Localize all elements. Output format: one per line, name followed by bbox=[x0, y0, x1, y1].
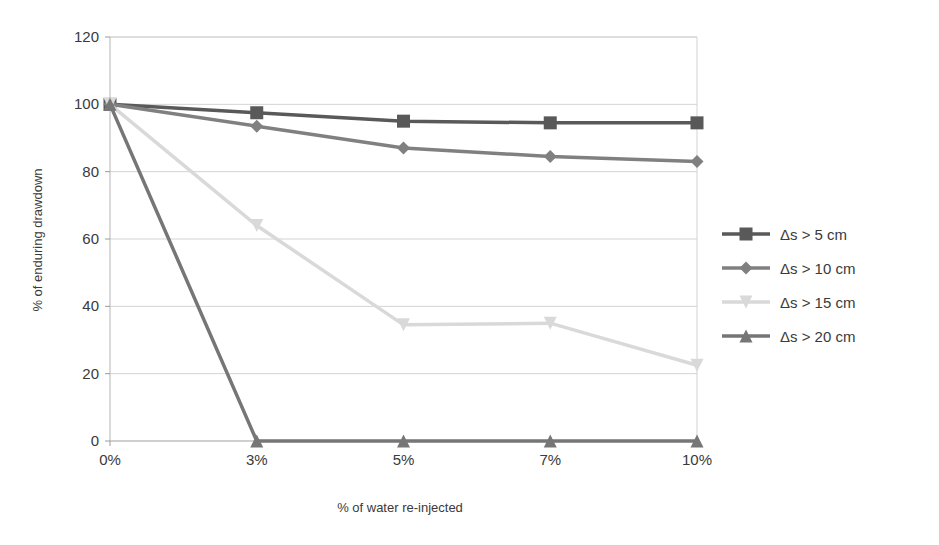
legend-marker-swatch bbox=[740, 228, 753, 241]
data-point-marker bbox=[691, 116, 704, 129]
legend-label: Δs > 15 cm bbox=[780, 294, 855, 311]
y-tick-label: 80 bbox=[82, 163, 99, 180]
x-axis-title: % of water re-injected bbox=[337, 500, 463, 515]
legend-item-0[interactable]: Δs > 5 cm bbox=[722, 226, 847, 243]
y-tick-label: 0 bbox=[91, 432, 99, 449]
x-tick-label: 5% bbox=[393, 451, 415, 468]
x-tick-label: 10% bbox=[682, 451, 712, 468]
data-point-marker bbox=[397, 115, 410, 128]
legend-label: Δs > 10 cm bbox=[780, 260, 855, 277]
y-axis-title: % of enduring drawdown bbox=[30, 168, 45, 311]
legend-label: Δs > 5 cm bbox=[780, 226, 847, 243]
x-tick-label: 7% bbox=[539, 451, 561, 468]
y-tick-label: 60 bbox=[82, 230, 99, 247]
x-tick-label: 0% bbox=[99, 451, 121, 468]
data-point-marker bbox=[544, 116, 557, 129]
line-chart: 120100806040200 0%3%5%7%10% % of water r… bbox=[0, 0, 939, 545]
y-tick-label: 20 bbox=[82, 365, 99, 382]
legend-label: Δs > 20 cm bbox=[780, 328, 855, 345]
y-tick-label: 40 bbox=[82, 297, 99, 314]
x-tick-label: 3% bbox=[246, 451, 268, 468]
y-tick-label: 100 bbox=[74, 95, 99, 112]
y-tick-label: 120 bbox=[74, 28, 99, 45]
chart-container: 120100806040200 0%3%5%7%10% % of water r… bbox=[0, 0, 939, 545]
data-point-marker bbox=[250, 106, 263, 119]
